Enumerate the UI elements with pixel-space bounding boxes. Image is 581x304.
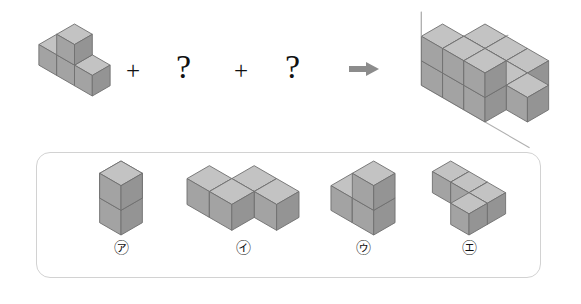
option-ga-figure [61,157,181,239]
option-ra[interactable]: ㋓ [409,153,529,279]
arrow-head [366,62,379,76]
option-ga[interactable]: ㋐ [61,153,181,279]
arrow-right-icon [349,62,379,76]
option-ra-svg [409,157,529,239]
option-ga-label: ㋐ [61,241,181,256]
cube-group [331,161,395,235]
question-mark-1: ? [176,50,191,84]
question-mark-2: ? [285,50,300,84]
option-ra-label: ㋓ [409,241,529,256]
option-na-figure [183,157,303,239]
option-na-svg [183,157,303,239]
option-da-label: ㋒ [303,241,423,256]
plus-sign-2: + [234,58,248,83]
cube-group [39,24,110,96]
cube-group [187,166,299,231]
option-da-svg [303,157,423,239]
given-solid-svg [22,20,127,100]
option-na[interactable]: ㋑ [183,153,303,279]
options-panel: ㋐ ㋑ ㋒ ㋓ [36,152,541,278]
cube-group [432,161,505,235]
result-solid-figure [392,8,578,138]
option-da-figure [303,157,423,239]
option-ga-svg [61,157,181,239]
cube-group [100,161,143,235]
cube-group [421,24,548,122]
option-na-label: ㋑ [183,241,303,256]
option-ra-figure [409,157,529,239]
option-da[interactable]: ㋒ [303,153,423,279]
equation-row: + ? + ? [0,0,581,145]
given-solid-figure [22,20,127,100]
plus-sign-1: + [126,58,140,83]
result-solid-svg [392,8,578,138]
